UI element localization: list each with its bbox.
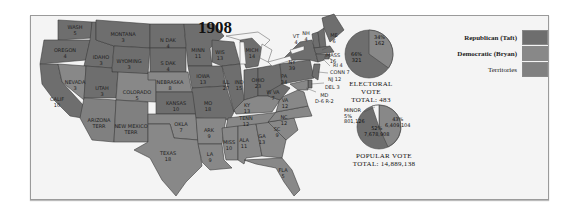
electoral-rep-label: 66%321 bbox=[351, 52, 362, 63]
electoral-dem-label: 34%162 bbox=[374, 35, 385, 46]
label-ny: NY39 bbox=[289, 60, 296, 71]
label-fla: FLA5 bbox=[278, 168, 287, 179]
label-ohio: OHIO23 bbox=[251, 78, 264, 89]
label-ill: ILL27 bbox=[222, 80, 229, 91]
label-pa: PA34 bbox=[281, 74, 287, 85]
legend-swatch-democratic bbox=[522, 46, 548, 61]
label-arizona: ARIZONATERR bbox=[88, 118, 111, 129]
label-texas: TEXAS18 bbox=[160, 151, 176, 162]
label-nebraska: NEBRASKA8 bbox=[157, 80, 184, 91]
label-colorado: COLORADO5 bbox=[123, 90, 151, 101]
popular-rep-label: 52%7,678,908 bbox=[364, 126, 389, 137]
label-mich: MICH14 bbox=[245, 48, 258, 59]
label-wis: WIS13 bbox=[215, 50, 225, 61]
label-conn: CONN 7 bbox=[330, 70, 350, 76]
label-nc: NC12 bbox=[280, 115, 287, 126]
label-kansas: KANSAS10 bbox=[166, 101, 186, 112]
legend-swatch-republican bbox=[522, 30, 548, 45]
label-wash: WASH5 bbox=[67, 25, 82, 36]
legend-republican: Republican (Taft) bbox=[464, 30, 548, 45]
label-utah: UTAH3 bbox=[95, 86, 109, 97]
legend-democratic: Democratic (Bryan) bbox=[457, 46, 548, 61]
label-md: MDD-6 R-2 bbox=[315, 93, 334, 104]
label-calif: CALIF10 bbox=[50, 97, 64, 108]
state-mo bbox=[192, 86, 234, 120]
legend-label: Republican (Taft) bbox=[464, 34, 517, 42]
territory-new-mexico bbox=[114, 100, 148, 142]
label-wyoming: WYOMING3 bbox=[116, 59, 141, 70]
label-vt: VT4 bbox=[293, 34, 299, 45]
label-n-dak: N DAK4 bbox=[160, 38, 176, 49]
label-miss: MISS10 bbox=[223, 140, 235, 151]
electoral-vote-caption: ELECTORAL VOTETOTAL: 483 bbox=[340, 80, 402, 104]
popular-vote-caption: POPULAR VOTETOTAL: 14,889,138 bbox=[345, 152, 423, 168]
state-conn bbox=[316, 54, 326, 62]
legend-swatch-territories bbox=[522, 62, 548, 77]
legend-label: Territories bbox=[488, 66, 517, 74]
label-s-dak: S DAK4 bbox=[160, 61, 175, 72]
label-ga: GA13 bbox=[258, 134, 265, 145]
label-nevada: NEVADA3 bbox=[65, 80, 86, 91]
popular-minor-label: MINOR5%801,126 bbox=[344, 108, 365, 125]
label-la: LA9 bbox=[207, 152, 213, 163]
label-va: VA12 bbox=[282, 98, 289, 109]
label-ind: IND15 bbox=[234, 80, 243, 91]
label-sc: SC9 bbox=[274, 127, 281, 138]
label-del: DEL 3 bbox=[325, 85, 340, 91]
legend-label: Democratic (Bryan) bbox=[457, 50, 517, 58]
legend-territories: Territories bbox=[488, 62, 548, 77]
label-ky: KY13 bbox=[244, 103, 250, 114]
label-iowa: IOWA13 bbox=[196, 74, 210, 85]
label-ala: ALA11 bbox=[239, 138, 249, 149]
label-me: ME6 bbox=[330, 33, 337, 44]
state-fla bbox=[244, 158, 300, 196]
label-tenn: TENN12 bbox=[239, 116, 253, 127]
label-montana: MONTANA3 bbox=[110, 32, 135, 43]
label-idaho: IDAHO3 bbox=[93, 55, 109, 66]
map-title: 1908 bbox=[198, 18, 232, 38]
label-ark: ARK9 bbox=[204, 128, 214, 139]
label-minn: MINN11 bbox=[191, 48, 204, 59]
label-ri: RI 4 bbox=[333, 63, 343, 69]
label-oregon: OREGON4 bbox=[54, 48, 76, 59]
label-new-mexico: NEW MEXICOTERR bbox=[114, 124, 147, 135]
label-nh: NH4 bbox=[302, 31, 310, 42]
label-okla: OKLA7 bbox=[174, 122, 188, 133]
lake-huron bbox=[260, 44, 272, 62]
label-w-va: W VA7 bbox=[266, 90, 279, 101]
label-mo: MO18 bbox=[204, 101, 212, 112]
